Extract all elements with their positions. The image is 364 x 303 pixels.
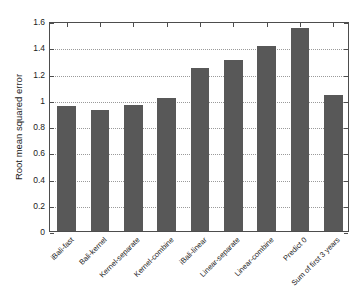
y-axis-tick-label: 0.8 [5,123,45,132]
bar [224,60,243,231]
y-axis-tick-mark [344,23,348,24]
bar [324,95,343,232]
y-axis-tick-label: 0 [5,228,45,237]
y-axis-tick-mark [344,102,348,103]
y-axis-tick-mark [50,207,54,208]
y-axis-tick-mark [50,49,54,50]
y-axis-tick-label: 0.2 [5,201,45,210]
y-axis-tick-label: 0.4 [5,175,45,184]
y-axis-tick-mark [344,181,348,182]
y-axis-tick-mark [50,128,54,129]
y-axis-tick-mark [344,128,348,129]
x-axis-tick-mark [167,23,168,27]
y-axis-tick-label: 1.6 [5,18,45,27]
y-axis-tick-mark [50,23,54,24]
y-axis-tick-mark [344,207,348,208]
x-axis-tick-mark [200,23,201,27]
x-axis-tick-mark [233,23,234,27]
y-axis-tick-mark [50,102,54,103]
x-axis-tick-mark [67,23,68,27]
bar [57,106,76,231]
x-axis-tick-mark [100,23,101,27]
y-axis-tick-mark [50,233,54,234]
chart-figure: Root mean squared error 00.20.40.60.811.… [0,0,364,303]
x-axis-tick-mark [133,23,134,27]
x-axis-tick-label: iBali-fast [49,236,75,262]
x-axis-tick-label: Bali-kernel [78,236,109,267]
y-axis-tick-mark [50,181,54,182]
x-axis-tick-mark [333,23,334,27]
x-axis-tick-mark [267,23,268,27]
bar [91,110,110,231]
y-axis-tick-label: 1 [5,96,45,105]
y-axis-tick-label: 1.4 [5,44,45,53]
x-axis-tick-label: Predict 0 [282,236,309,263]
x-axis-tick-mark [300,23,301,27]
x-axis-tick-label: iBali-linear [178,236,208,266]
y-axis-tick-mark [344,76,348,77]
y-axis-tick-mark [344,49,348,50]
y-axis-tick-label: 1.2 [5,70,45,79]
y-axis-tick-mark [344,154,348,155]
y-axis-tick-mark [50,76,54,77]
y-axis-tick-label: 0.6 [5,149,45,158]
y-axis-tick-mark [50,154,54,155]
